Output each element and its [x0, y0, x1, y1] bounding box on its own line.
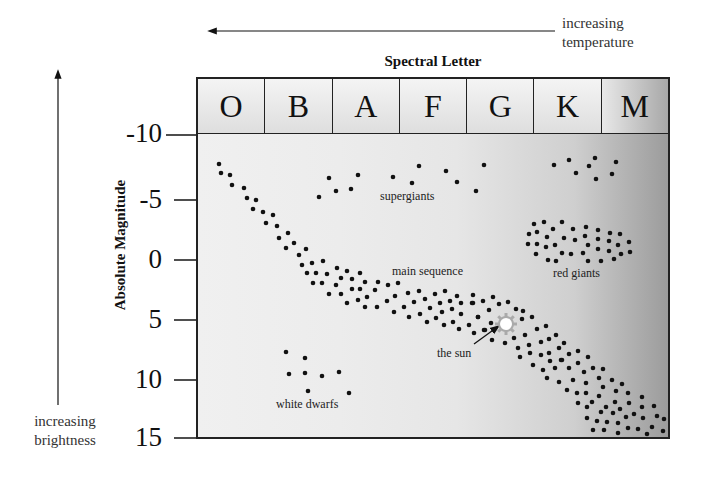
star-dot	[545, 376, 550, 381]
star-dot	[228, 173, 233, 178]
star-dot	[545, 235, 550, 240]
star-dot	[472, 331, 477, 336]
star-dot	[532, 222, 537, 227]
star-dot	[320, 281, 325, 286]
star-dot	[489, 321, 494, 326]
star-dot	[277, 236, 282, 241]
main-sequence-label: main sequence	[392, 264, 463, 279]
star-dot	[604, 405, 609, 410]
star-dot	[412, 300, 417, 305]
star-dot	[271, 213, 276, 218]
star-dot	[596, 228, 601, 233]
star-dot	[576, 349, 581, 354]
star-dot	[306, 389, 311, 394]
star-dot	[593, 156, 598, 161]
star-dot	[261, 210, 266, 215]
star-dot	[599, 410, 604, 415]
star-dot	[616, 431, 621, 436]
star-dot	[303, 356, 308, 361]
star-dot	[562, 341, 567, 346]
star-dot	[487, 308, 492, 313]
star-dot	[562, 236, 567, 241]
star-dot	[535, 230, 540, 235]
star-dot	[594, 177, 599, 182]
star-dot	[264, 221, 269, 226]
star-dot	[471, 293, 476, 298]
star-dot	[554, 333, 559, 338]
star-dot	[527, 343, 532, 348]
star-dot	[645, 432, 650, 437]
red-giants-label: red giants	[553, 266, 600, 281]
star-dot	[365, 295, 370, 300]
star-dot	[602, 428, 607, 433]
star-dot	[491, 295, 496, 300]
star-dot	[581, 251, 586, 256]
star-dot	[311, 281, 316, 286]
star-dot	[451, 320, 456, 325]
star-dot	[584, 391, 589, 396]
star-dot	[528, 351, 533, 356]
star-dot	[337, 370, 342, 375]
star-dot	[391, 175, 396, 180]
star-dot	[444, 169, 449, 174]
star-dot	[325, 272, 330, 277]
star-dot	[347, 391, 352, 396]
star-dot	[418, 312, 423, 317]
star-dot	[423, 297, 428, 302]
star-dot	[474, 189, 479, 194]
star-dot	[544, 324, 549, 329]
star-dot	[450, 307, 455, 312]
star-dot	[575, 391, 580, 396]
star-dot	[608, 231, 613, 236]
star-dot	[251, 207, 256, 212]
star-dot	[490, 338, 495, 343]
star-dot	[339, 276, 344, 281]
star-dot	[595, 419, 600, 424]
star-dot	[497, 302, 502, 307]
sun-icon	[495, 313, 517, 335]
star-dot	[356, 173, 361, 178]
star-dot	[417, 289, 422, 294]
star-dot	[373, 288, 378, 293]
sun-label: the sun	[437, 346, 471, 361]
star-dot	[655, 414, 660, 419]
star-dot	[527, 232, 532, 237]
star-dot	[548, 359, 553, 364]
star-dot	[571, 227, 576, 232]
star-dot	[553, 243, 558, 248]
star-dot	[327, 292, 332, 297]
star-dot	[586, 259, 591, 264]
star-dot	[539, 340, 544, 345]
star-dot	[455, 294, 460, 299]
star-dot	[375, 305, 380, 310]
star-dot	[335, 266, 340, 271]
star-dot	[481, 299, 486, 304]
star-dot	[585, 416, 590, 421]
hr-diagram: increasing temperature increasing bright…	[0, 0, 702, 479]
star-dot	[614, 160, 619, 165]
star-dot	[610, 378, 615, 383]
star-dot	[534, 252, 539, 257]
star-dot	[297, 253, 302, 258]
star-dot	[217, 162, 222, 167]
star-dot	[483, 328, 488, 333]
star-dot	[516, 346, 521, 351]
star-dot	[610, 172, 615, 177]
star-dot	[557, 346, 562, 351]
star-dot	[459, 312, 464, 317]
star-dot	[576, 361, 581, 366]
star-dot	[476, 315, 481, 320]
star-dot	[314, 271, 319, 276]
star-dot	[599, 259, 604, 264]
star-dot	[438, 301, 443, 306]
star-dot	[396, 281, 401, 286]
star-dot	[385, 299, 390, 304]
star-dot	[619, 252, 624, 257]
star-dot	[539, 353, 544, 358]
star-dot	[627, 401, 632, 406]
star-dot	[567, 352, 572, 357]
star-dot	[632, 412, 637, 417]
star-dot	[327, 176, 332, 181]
star-dot	[303, 371, 308, 376]
star-dot	[591, 428, 596, 433]
